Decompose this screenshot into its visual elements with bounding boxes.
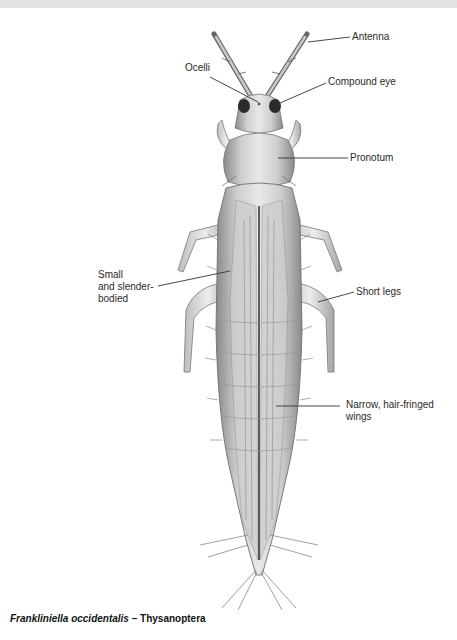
pronotum	[223, 133, 294, 187]
compound-eye-right	[269, 99, 281, 113]
caption-separator: –	[129, 613, 140, 624]
compound-eye-left	[238, 99, 250, 113]
thrips-illustration	[0, 0, 457, 640]
label-pronotum: Pronotum	[350, 152, 393, 164]
caption-species: Frankliniella occidentalis	[10, 613, 129, 624]
antennae	[214, 34, 307, 98]
label-compound-eye: Compound eye	[328, 76, 396, 88]
label-ocelli: Ocelli	[185, 62, 210, 74]
label-short-legs: Short legs	[356, 286, 401, 298]
caption-order: Thysanoptera	[140, 613, 206, 624]
leader-ocelli	[210, 77, 258, 102]
label-small-slender: Small and slender- bodied	[98, 269, 154, 305]
leader-antenna	[308, 37, 350, 42]
figure-caption: Frankliniella occidentalis – Thysanopter…	[10, 613, 206, 624]
label-antenna: Antenna	[352, 31, 389, 43]
label-wings: Narrow, hair-fringed wings	[346, 399, 434, 423]
leader-compound-eye	[280, 83, 326, 103]
